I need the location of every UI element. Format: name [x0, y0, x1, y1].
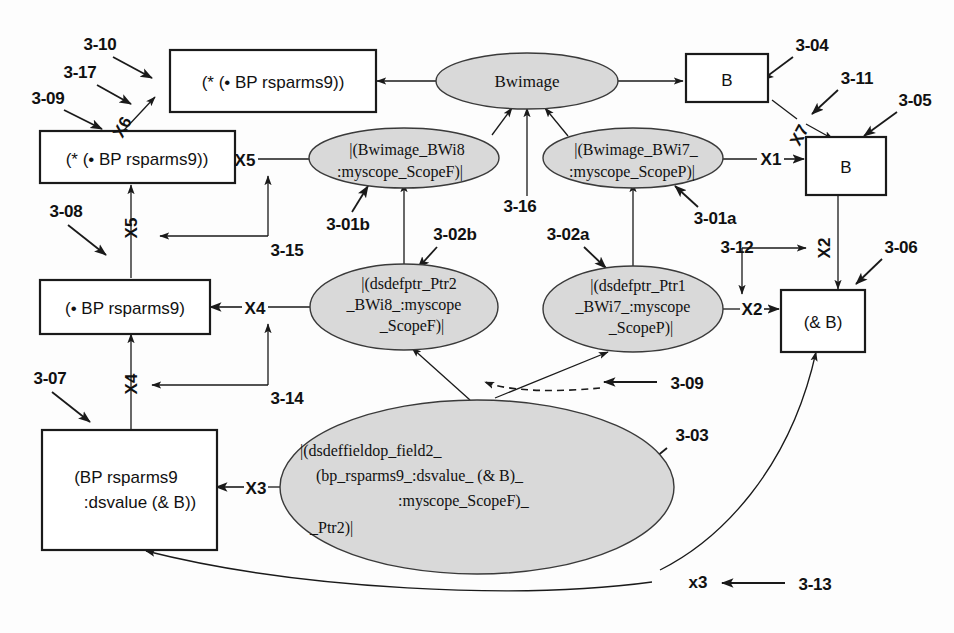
node-box-left-bp-line2: :dsvalue (& B)) [84, 493, 196, 512]
node-ellipse-bwimage[interactable]: Bwimage [436, 53, 618, 109]
edge-b-top-to-x7 [772, 100, 797, 119]
annotation-3-02a: 3-02a [547, 225, 590, 244]
annotation-3-13: 3-13 [798, 575, 831, 594]
node-box-left-bp[interactable]: (BP rsparms9 :dsvalue (& B)) [42, 430, 217, 550]
port-label-x5-below: X5 [122, 218, 141, 239]
annotation-3-17: 3-17 [63, 63, 96, 82]
node-ellipse-bwi8[interactable]: |(Bwimage_BWi8 :myscope_ScopeF)| [309, 128, 499, 188]
annotation-3-01a: 3-01a [694, 209, 737, 228]
annotation-3-06: 3-06 [884, 238, 917, 257]
ann-arrow-3-08 [68, 225, 106, 255]
ann-arrow-3-01b [352, 186, 368, 212]
diagram-svg: (* (• BP rsparms9)) (* (• BP rsparms9)) … [0, 0, 954, 633]
port-label-x4-below: X4 [122, 373, 141, 394]
node-ellipse-bwi8-line2: :myscope_ScopeF)| [337, 163, 463, 181]
node-box-and-b[interactable]: (& B) [781, 290, 865, 352]
annotation-3-04: 3-04 [795, 36, 829, 55]
node-ellipse-field2-line1: |(dsdeffieldop_field2_ [300, 442, 443, 460]
node-ellipse-field2-line3: :myscope_ScopeF)_ [398, 492, 530, 510]
ann-arrow-3-09-left [64, 110, 102, 129]
annotation-3-05: 3-05 [898, 91, 931, 110]
annotation-3-12: 3-12 [720, 238, 753, 257]
annotation-3-10: 3-10 [83, 35, 116, 54]
annotation-3-08: 3-08 [49, 202, 82, 221]
node-box-top-star-label: (* (• BP rsparms9)) [202, 73, 345, 92]
node-box-left-star[interactable]: (* (• BP rsparms9)) [40, 131, 235, 183]
port-label-x4-right: X4 [245, 299, 266, 318]
node-box-b-top-label: B [721, 71, 732, 90]
node-box-left-dot-label: (• BP rsparms9) [65, 299, 185, 318]
node-box-and-b-label: (& B) [804, 313, 843, 332]
node-ellipse-field2-line2: (bp_rsparms9_:dsvalue_ (& B)_ [316, 467, 524, 485]
port-label-x3-bottom: x3 [689, 573, 708, 592]
edge-field2-to-ptr2 [412, 348, 470, 400]
annotation-3-09-left: 3-09 [31, 89, 64, 108]
edge-bwi7-to-bwimage [545, 108, 568, 136]
annotation-3-07: 3-07 [33, 369, 66, 388]
ann-arrow-3-07 [52, 392, 90, 422]
node-ellipse-bwi7[interactable]: |(Bwimage_BWi7_ :myscope_ScopeP)| [543, 128, 723, 188]
node-ellipse-ptr2[interactable]: |(dsdefptr_Ptr2 _BWi8_:myscope _ScopeF)| [310, 264, 498, 350]
node-ellipse-field2-line4: _Ptr2)| [309, 519, 353, 537]
ann-arrow-3-10 [113, 57, 152, 78]
annotation-3-01b: 3-01b [326, 215, 369, 234]
ann-arrow-3-06 [856, 259, 882, 284]
annotation-3-09-mid: 3-09 [670, 374, 703, 393]
annotation-3-02b: 3-02b [433, 225, 476, 244]
node-ellipse-ptr1-line3: _ScopeP)| [608, 319, 674, 337]
node-box-b-mid-label: B [840, 158, 851, 177]
annotation-3-03: 3-03 [675, 426, 708, 445]
ann-arrow-3-02a [584, 247, 606, 268]
port-label-x2-left: X2 [742, 300, 763, 319]
node-ellipse-ptr2-line2: _BWi8_:myscope [346, 296, 462, 314]
node-ellipse-bwimage-label: Bwimage [494, 72, 559, 91]
ann-arrow-3-11 [812, 90, 838, 114]
node-box-left-star-label: (* (• BP rsparms9)) [66, 150, 209, 169]
annotation-3-16: 3-16 [503, 197, 536, 216]
node-box-b-top[interactable]: B [686, 54, 768, 102]
node-box-top-star[interactable]: (* (• BP rsparms9)) [170, 50, 376, 112]
node-ellipse-ptr2-line3: _ScopeF)| [379, 317, 445, 335]
node-ellipse-bwi7-line2: :myscope_ScopeP)| [569, 163, 695, 181]
node-ellipse-ptr1[interactable]: |(dsdefptr_Ptr1 _BWi7_:myscope _ScopeP)| [543, 266, 723, 352]
node-box-left-bp-line1: (BP rsparms9 [74, 468, 178, 487]
edge-dashed-field2-to-ptr1 [485, 382, 600, 390]
node-ellipse-bwi8-line1: |(Bwimage_BWi8 [349, 141, 464, 159]
node-ellipse-bwi7-line1: |(Bwimage_BWi7_ [574, 141, 698, 159]
annotation-3-15: 3-15 [270, 241, 303, 260]
port-label-x3: X3 [246, 479, 267, 498]
node-box-b-mid[interactable]: B [806, 137, 886, 195]
annotation-3-11: 3-11 [841, 69, 873, 88]
ann-arrow-3-05 [864, 112, 897, 136]
node-box-left-dot[interactable]: (• BP rsparms9) [40, 280, 210, 334]
node-ellipse-field2[interactable]: |(dsdeffieldop_field2_ (bp_rsparms9_:dsv… [280, 400, 674, 574]
node-ellipse-ptr1-line1: |(dsdefptr_Ptr1 [590, 277, 686, 295]
port-label-x5-right: X5 [235, 151, 256, 170]
port-label-x1: X1 [761, 150, 782, 169]
port-label-x2-top: X2 [815, 238, 834, 259]
ann-arrow-3-01a [675, 186, 698, 207]
annotation-3-14: 3-14 [270, 389, 304, 408]
ann-arrow-3-17 [97, 85, 131, 104]
node-ellipse-ptr1-line2: _BWi7_:myscope [575, 298, 691, 316]
node-ellipse-ptr2-line1: |(dsdefptr_Ptr2 [361, 275, 457, 293]
edge-bwi8-to-bwimage [492, 108, 512, 135]
diagram-canvas: (* (• BP rsparms9)) (* (• BP rsparms9)) … [0, 0, 954, 633]
